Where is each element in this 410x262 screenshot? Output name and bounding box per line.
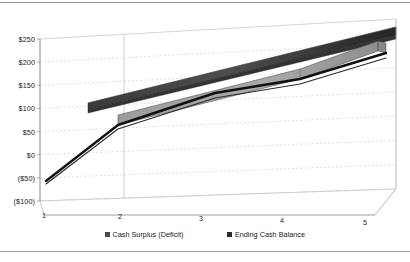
- y-tick-label: ($50): [0, 174, 35, 183]
- y-axis-line: [37, 39, 40, 201]
- chart-legend: Cash Surplus (Deficit) Ending Cash Balan…: [0, 231, 410, 238]
- y-tick-label: $150: [0, 81, 35, 90]
- legend-item-cash-surplus[interactable]: Cash Surplus (Deficit): [105, 231, 183, 238]
- x-tick-label: 2: [110, 212, 130, 221]
- legend-swatch-icon: [227, 232, 232, 237]
- legend-label: Ending Cash Balance: [235, 231, 305, 238]
- y-tick-label: ($100): [0, 197, 35, 206]
- x-tick-label: 4: [272, 216, 292, 225]
- y-tick-label: $250: [0, 35, 35, 44]
- legend-label: Cash Surplus (Deficit): [112, 231, 183, 238]
- chart-frame: $250 $200 $150 $100 $50 $0 ($50) ($100) …: [0, 2, 410, 252]
- legend-swatch-icon: [105, 232, 110, 237]
- y-tick-label: $200: [0, 58, 35, 67]
- y-tick-label: $50: [0, 128, 35, 137]
- x-tick-label: 3: [191, 214, 211, 223]
- legend-item-ending-cash-balance[interactable]: Ending Cash Balance: [227, 231, 305, 238]
- y-tick-label: $100: [0, 104, 35, 113]
- y-tick-label: $0: [0, 151, 35, 160]
- x-tick-label: 1: [34, 211, 54, 220]
- x-tick-label: 5: [355, 218, 375, 227]
